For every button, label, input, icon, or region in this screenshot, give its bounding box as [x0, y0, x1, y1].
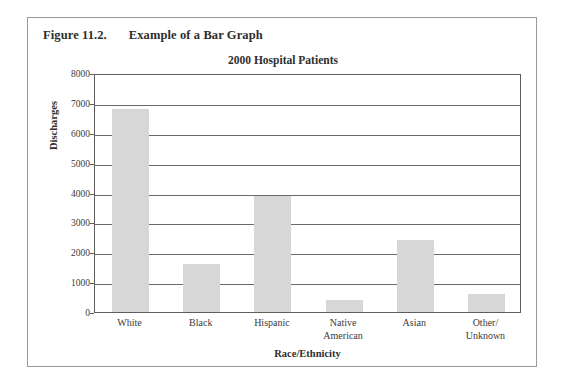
- gridline: [95, 135, 520, 136]
- x-tick-label-line: Other/: [450, 316, 521, 329]
- bar: [468, 294, 505, 312]
- figure-frame: Figure 11.2.Example of a Bar Graph 2000 …: [27, 17, 537, 367]
- bar: [254, 196, 291, 313]
- x-tick-label: Hispanic: [236, 316, 307, 329]
- x-tick-label-line: Black: [165, 316, 236, 329]
- gridline: [95, 224, 520, 225]
- y-tick-label: 3000: [71, 218, 90, 228]
- x-tick-label: White: [94, 316, 165, 329]
- y-axis-tick-labels: 010002000300040005000600070008000: [50, 74, 90, 313]
- y-tick-label: 2000: [71, 248, 90, 258]
- chart-title: 2000 Hospital Patients: [28, 54, 538, 66]
- gridline: [95, 105, 520, 106]
- bar: [397, 240, 434, 312]
- x-tick-label: Other/Unknown: [450, 316, 521, 342]
- bar: [326, 300, 363, 312]
- x-tick-label-line: White: [94, 316, 165, 329]
- y-tick-label: 5000: [71, 159, 90, 169]
- y-tick-label: 4000: [71, 189, 90, 199]
- x-tick-label: Asian: [379, 316, 450, 329]
- gridline: [95, 195, 520, 196]
- y-tick-label: 8000: [71, 69, 90, 79]
- gridline: [95, 165, 520, 166]
- y-tick-mark: [90, 313, 94, 314]
- bar: [112, 109, 149, 312]
- x-tick-label: NativeAmerican: [308, 316, 379, 342]
- x-axis-title: Race/Ethnicity: [94, 348, 521, 359]
- x-tick-label-line: Native: [308, 316, 379, 329]
- gridline: [95, 254, 520, 255]
- plot-area: [94, 74, 521, 313]
- x-tick-label-line: Unknown: [450, 329, 521, 342]
- bar-chart: 2000 Hospital Patients Discharges 010002…: [28, 18, 538, 368]
- y-tick-label: 1000: [71, 278, 90, 288]
- y-tick-label: 6000: [71, 129, 90, 139]
- bar: [183, 264, 220, 312]
- gridline: [95, 284, 520, 285]
- x-tick-label-line: American: [308, 329, 379, 342]
- x-tick-label-line: Asian: [379, 316, 450, 329]
- y-tick-label: 7000: [71, 99, 90, 109]
- x-tick-label: Black: [165, 316, 236, 329]
- x-tick-label-line: Hispanic: [236, 316, 307, 329]
